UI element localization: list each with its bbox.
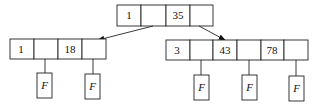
right-child-node: 3 43 78 bbox=[166, 40, 308, 60]
left-cell-1 bbox=[34, 39, 58, 59]
right-cell-3 bbox=[237, 40, 261, 60]
right-key-0: 3 bbox=[174, 44, 180, 56]
root-node: 1 35 bbox=[117, 5, 213, 26]
root-cell-3 bbox=[190, 5, 213, 26]
root-cell-1 bbox=[141, 5, 166, 26]
left-leaf-label-1: F bbox=[88, 80, 96, 92]
right-key-2: 43 bbox=[220, 44, 232, 56]
right-cell-5 bbox=[284, 40, 308, 60]
arrow-to-right-child bbox=[199, 26, 225, 40]
left-key-2: 18 bbox=[65, 43, 77, 55]
left-leaf-label-0: F bbox=[40, 79, 48, 91]
root-key-2: 35 bbox=[173, 9, 185, 21]
left-cell-3 bbox=[82, 39, 106, 59]
left-key-0: 1 bbox=[18, 43, 24, 55]
right-key-4: 78 bbox=[267, 44, 279, 56]
left-child-node: 1 18 bbox=[10, 39, 106, 59]
right-leaf-label-1: F bbox=[245, 81, 253, 93]
tree-diagram: 1 35 1 18 F F 3 43 78 F F F bbox=[0, 0, 314, 108]
right-cell-1 bbox=[190, 40, 213, 60]
right-leaf-label-0: F bbox=[197, 81, 205, 93]
arrow-to-left-child bbox=[98, 26, 153, 40]
root-key-0: 1 bbox=[126, 9, 132, 21]
right-leaf-label-2: F bbox=[292, 82, 300, 94]
